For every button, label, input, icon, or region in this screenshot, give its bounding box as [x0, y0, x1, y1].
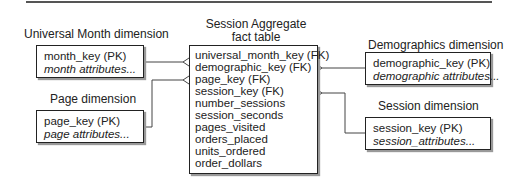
fact-field: session_key (FK)	[195, 85, 312, 97]
fact-field: number_sessions	[195, 97, 312, 109]
session-dimension-box: session_key (PK) session_attributes...	[365, 117, 491, 150]
fact-field: universal_month_key (FK)	[195, 49, 312, 61]
month-dimension-box: month_key (PK) month attributes...	[36, 45, 144, 78]
fact-field: demographic_key (FK)	[195, 61, 312, 73]
session-attributes-field: session_attributes...	[373, 135, 483, 148]
fact-field: pages_visited	[195, 121, 312, 133]
page-attributes-field: page attributes...	[44, 128, 136, 141]
page-dimension-box: page_key (PK) page attributes...	[36, 110, 144, 143]
session-key-field: session_key (PK)	[373, 122, 483, 135]
page-key-field: page_key (PK)	[44, 115, 136, 128]
page-dimension-title: Page dimension	[50, 93, 136, 106]
fact-table-title: Session Aggregate fact table	[196, 18, 316, 44]
fact-field: units_ordered	[195, 145, 312, 157]
demographic-attributes-field: demographic attributes...	[373, 70, 483, 83]
month-dimension-title: Universal Month dimension	[24, 28, 169, 41]
session-dimension-title: Session dimension	[378, 100, 479, 113]
fact-table-title-line2: fact table	[196, 31, 316, 44]
month-key-field: month_key (PK)	[44, 50, 136, 63]
month-attributes-field: month attributes...	[44, 63, 136, 76]
fact-field: order_dollars	[195, 157, 312, 169]
demographics-dimension-title: Demographics dimension	[368, 39, 503, 52]
fact-field: orders_placed	[195, 133, 312, 145]
demographics-dimension-box: demographic_key (PK) demographic attribu…	[365, 52, 491, 85]
fact-field: session_seconds	[195, 109, 312, 121]
demographic-key-field: demographic_key (PK)	[373, 57, 483, 70]
fact-field: page_key (FK)	[195, 73, 312, 85]
fact-table-box: universal_month_key (FK) demographic_key…	[189, 45, 318, 174]
